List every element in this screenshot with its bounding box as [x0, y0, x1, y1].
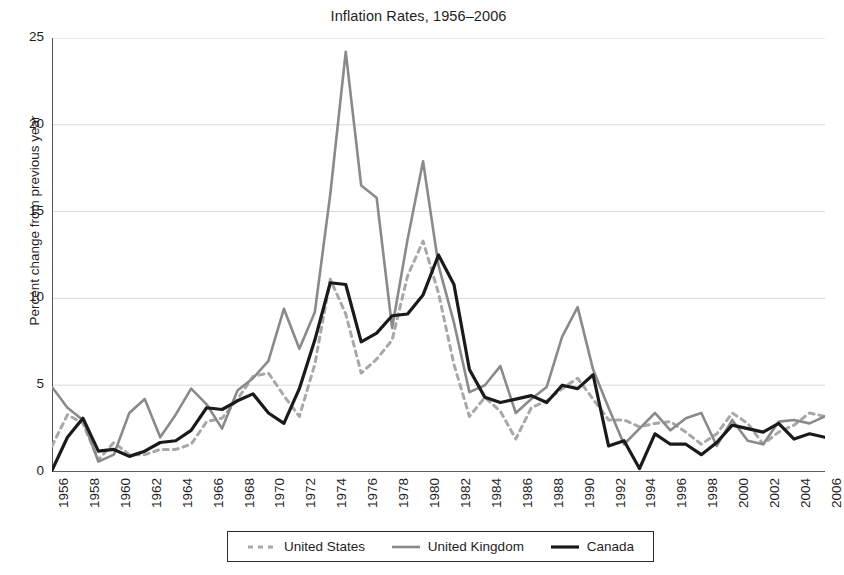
x-tick-label: 1994 [644, 478, 658, 508]
x-tick-label: 1974 [335, 478, 349, 508]
x-tick-label: 1964 [181, 478, 195, 508]
x-axis-tick-labels: 1956195819601962196419661968197019721974… [52, 478, 825, 530]
chart-legend: United StatesUnited KingdomCanada [227, 531, 654, 562]
plot-area [52, 38, 825, 472]
legend-entry-canada[interactable]: Canada [550, 539, 634, 554]
x-tick-label: 1958 [88, 478, 102, 508]
solid-gray-line [391, 542, 421, 552]
chart-title: Inflation Rates, 1956–2006 [0, 8, 837, 24]
x-tick-label: 1990 [583, 478, 597, 508]
x-tick-label: 2006 [830, 478, 844, 508]
y-tick-label: 15 [10, 204, 44, 218]
x-tick-label: 1978 [397, 478, 411, 508]
y-axis-tick-labels: 0510152025 [0, 38, 44, 472]
legend-label: Canada [587, 539, 634, 554]
x-tick-label: 1988 [552, 478, 566, 508]
y-tick-label: 5 [10, 377, 44, 391]
x-tick-label: 1976 [366, 478, 380, 508]
x-tick-label: 1980 [428, 478, 442, 508]
x-tick-label: 2000 [737, 478, 751, 508]
x-tick-label: 1984 [490, 478, 504, 508]
y-tick-label: 20 [10, 117, 44, 131]
x-tick-label: 1968 [243, 478, 257, 508]
x-tick-label: 1998 [706, 478, 720, 508]
x-tick-label: 2002 [768, 478, 782, 508]
x-tick-label: 1992 [614, 478, 628, 508]
legend-entry-united-kingdom[interactable]: United Kingdom [391, 539, 524, 554]
x-tick-label: 1970 [273, 478, 287, 508]
x-tick-label: 1962 [150, 478, 164, 508]
x-tick-label: 1986 [521, 478, 535, 508]
y-tick-label: 10 [10, 290, 44, 304]
x-tick-label: 1982 [459, 478, 473, 508]
y-tick-label: 25 [10, 30, 44, 44]
legend-label: United Kingdom [428, 539, 524, 554]
x-tick-label: 1966 [212, 478, 226, 508]
y-tick-label: 0 [10, 464, 44, 478]
legend-label: United States [284, 539, 365, 554]
plot-svg [52, 38, 825, 472]
solid-black-line [550, 542, 580, 552]
legend-entry-united-states[interactable]: United States [247, 539, 365, 554]
x-tick-label: 1960 [119, 478, 133, 508]
x-tick-label: 2004 [799, 478, 813, 508]
x-tick-label: 1972 [304, 478, 318, 508]
x-tick-label: 1996 [675, 478, 689, 508]
x-tick-label: 1956 [57, 478, 71, 508]
dashed-light-gray-line [247, 542, 277, 552]
